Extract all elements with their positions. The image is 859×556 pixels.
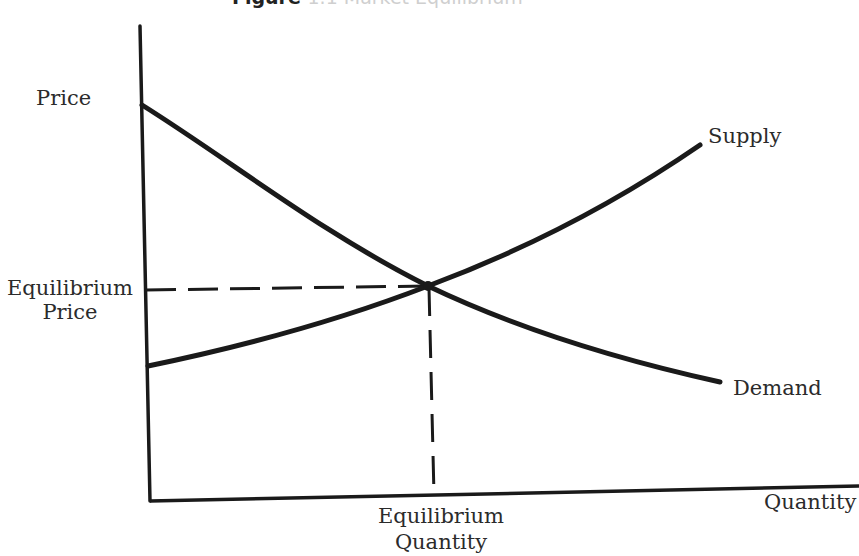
- supply-label: Supply: [708, 124, 781, 148]
- y-axis: [140, 26, 150, 501]
- equilibrium-price-dashed-line: [146, 286, 428, 290]
- supply-demand-chart: Figure 1.1 Market Equilibrium Price Equi…: [0, 0, 859, 556]
- demand-label: Demand: [733, 376, 822, 400]
- equilibrium-quantity-label-line2: Quantity: [364, 529, 518, 555]
- x-axis: [150, 486, 859, 501]
- x-axis-label: Quantity: [764, 490, 856, 514]
- equilibrium-point: [423, 281, 433, 291]
- supply-curve: [148, 145, 700, 366]
- equilibrium-price-label: Equilibrium Price: [4, 276, 136, 324]
- y-axis-label: Price: [36, 86, 91, 110]
- equilibrium-quantity-label: Equilibrium Quantity: [364, 503, 518, 555]
- equilibrium-price-label-line2: Price: [4, 300, 136, 324]
- equilibrium-quantity-label-line1: Equilibrium: [364, 503, 518, 529]
- equilibrium-price-label-line1: Equilibrium: [4, 276, 136, 300]
- equilibrium-quantity-dashed-line: [429, 288, 434, 495]
